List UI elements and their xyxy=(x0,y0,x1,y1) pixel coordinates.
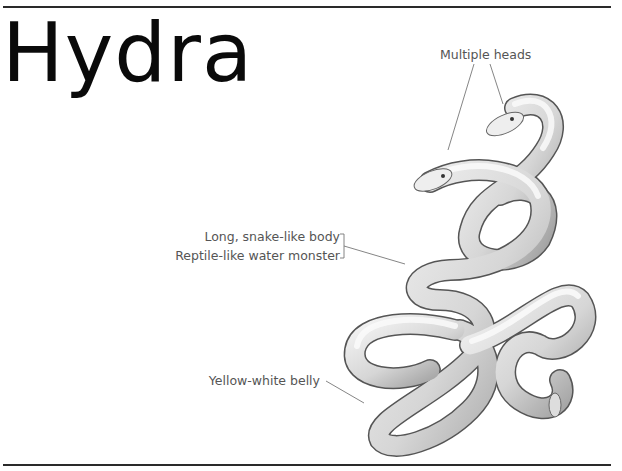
annotation-multiple-heads: Multiple heads xyxy=(440,47,531,62)
annotation-water-monster: Reptile-like water monster xyxy=(175,248,340,263)
annotation-snake-like-body: Long, snake-like body xyxy=(204,229,340,244)
bottom-rule xyxy=(3,464,611,466)
annotation-belly: Yellow-white belly xyxy=(209,373,320,388)
serpent-body xyxy=(355,101,586,446)
tail-head xyxy=(549,393,561,417)
